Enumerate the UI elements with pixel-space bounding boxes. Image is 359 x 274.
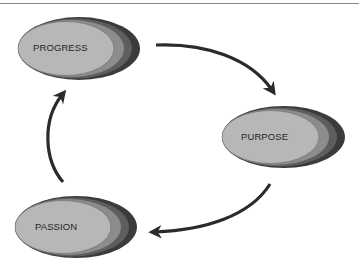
arrow-progress-to-purpose xyxy=(156,45,272,90)
node-purpose-label: PURPOSE xyxy=(241,131,288,142)
arrow-passion-to-progress xyxy=(48,95,63,182)
node-progress-label: PROGRESS xyxy=(33,42,88,53)
arrow-purpose-to-passion xyxy=(155,184,270,232)
node-passion-label: PASSION xyxy=(35,221,77,232)
